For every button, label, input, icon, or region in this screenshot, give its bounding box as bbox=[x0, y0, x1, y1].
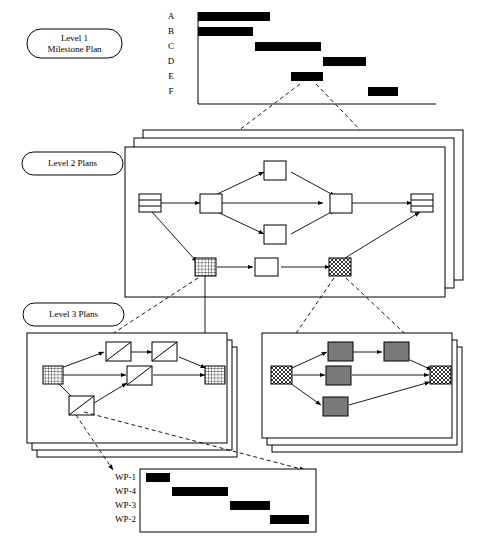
level1-row-label-b: B bbox=[168, 26, 174, 36]
level1-bar-b bbox=[198, 27, 253, 36]
level2-node-low bbox=[264, 225, 286, 244]
level3-left-node-b1 bbox=[69, 396, 94, 415]
level1-label-line2: Milestone Plan bbox=[47, 44, 102, 54]
level1-bar-e bbox=[291, 72, 323, 81]
wp-row-label-2: WP-4 bbox=[115, 486, 136, 496]
level2-label-badge: Level 2 Plans bbox=[22, 152, 123, 175]
level2-label: Level 2 Plans bbox=[48, 158, 97, 168]
level3-right-node-t2 bbox=[384, 342, 409, 361]
level1-label-badge: Level 1 Milestone Plan bbox=[27, 29, 122, 58]
level2-node-top bbox=[264, 161, 286, 180]
level2-group: Level 2 Plans bbox=[22, 130, 463, 297]
wp-bar-wp4 bbox=[172, 487, 228, 496]
level3-label-badge: Level 3 Plans bbox=[23, 303, 124, 326]
level1-row-label-c: C bbox=[168, 41, 174, 51]
level3-left-node-start bbox=[43, 366, 63, 384]
level1-group: Level 1 Milestone Plan A B C D E F bbox=[27, 11, 436, 104]
level1-row-label-f: F bbox=[168, 86, 173, 96]
wp-row-label-1: WP-1 bbox=[115, 472, 136, 482]
level3-left-node-m1 bbox=[127, 366, 152, 385]
level1-bar-c bbox=[255, 42, 321, 51]
hierarchical-plan-diagram: Level 1 Milestone Plan A B C D E F bbox=[0, 0, 480, 547]
level3-right-node-m1 bbox=[326, 366, 351, 385]
level1-gantt: A B C D E F bbox=[168, 11, 436, 104]
level1-row-label-a: A bbox=[168, 11, 175, 21]
wp-row-label-4: WP-2 bbox=[115, 514, 136, 524]
level3-right-node-start bbox=[271, 366, 292, 384]
workpackage-gantt: WP-1 WP-4 WP-3 WP-2 bbox=[115, 469, 316, 532]
level2-node-plain-lower bbox=[255, 258, 278, 276]
wp-bar-wp2 bbox=[270, 515, 309, 524]
level3-right-node-end bbox=[430, 366, 451, 384]
level2-node-grid bbox=[195, 258, 216, 276]
level1-row-label-d: D bbox=[168, 56, 175, 66]
level1-bar-a bbox=[198, 12, 270, 21]
figure-root: Level 1 Milestone Plan A B C D E F bbox=[0, 0, 480, 547]
wp-bar-wp3 bbox=[230, 501, 270, 510]
level2-node-end bbox=[411, 194, 433, 212]
level3-left-node-t2 bbox=[152, 342, 177, 361]
level2-node-crosshatch bbox=[329, 258, 351, 276]
level1-label-line1: Level 1 bbox=[61, 33, 88, 43]
level1-row-label-e: E bbox=[168, 71, 174, 81]
level3-left-node-end bbox=[205, 366, 225, 384]
level3-right-node-t1 bbox=[328, 342, 353, 361]
wp-row-label-3: WP-3 bbox=[115, 500, 136, 510]
level1-bar-f bbox=[368, 87, 398, 96]
level2-node-start bbox=[139, 194, 161, 212]
wp-bar-wp1 bbox=[146, 473, 170, 482]
level1-gantt-axes bbox=[198, 12, 436, 104]
level2-node-mid-left bbox=[200, 194, 222, 213]
level3-left-node-t1 bbox=[106, 342, 131, 361]
level3-right-node-b1 bbox=[323, 397, 348, 416]
level3-right-sheet-1 bbox=[262, 333, 452, 438]
level3-label: Level 3 Plans bbox=[49, 309, 98, 319]
level1-bar-d bbox=[323, 57, 366, 66]
level2-node-mid-right bbox=[330, 194, 352, 213]
